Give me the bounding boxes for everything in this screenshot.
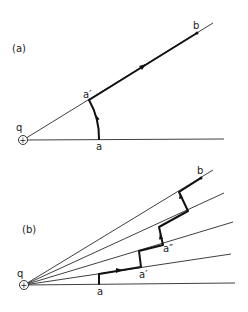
label-q: q: [16, 122, 22, 133]
label-a: a: [97, 286, 103, 297]
label-a: a: [96, 141, 102, 152]
ray-2: [24, 222, 233, 285]
staircase-path: [99, 178, 201, 284]
charge-sign: +: [21, 281, 28, 290]
field-path-diagram: (a) + q a a′ b (b) + q a: [0, 0, 248, 312]
label-b: b: [193, 20, 199, 31]
label-a-double-prime: a″: [163, 243, 173, 254]
panel-a-label: (a): [12, 43, 26, 54]
baseline-ray: [24, 283, 235, 285]
panel-b-label: (b): [22, 224, 36, 235]
label-b: b: [197, 165, 203, 176]
panel-a: (a) + q a a′ b: [12, 20, 224, 152]
panel-b: (b) + q a a′ a″ b: [17, 165, 235, 297]
ray-3: [24, 193, 224, 285]
label-a-prime: a′: [83, 89, 92, 100]
point-b-dot: [200, 177, 203, 180]
label-q: q: [17, 268, 23, 279]
arrow-icon: [94, 113, 100, 121]
point-b-dot: [196, 32, 199, 35]
label-a-prime: a′: [139, 269, 148, 280]
charge-sign: +: [20, 136, 27, 145]
baseline-ray: [23, 139, 224, 140]
